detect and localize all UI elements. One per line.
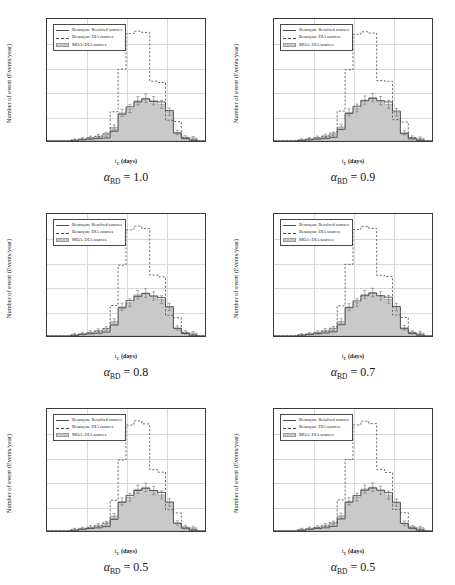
y-axis-label: Number of event (Events/year) [232,434,239,513]
y-axis-tick-mark [273,483,274,484]
y-axis-tick-mark [46,483,47,484]
legend-entry: Besançon: Resolved sources [56,417,122,423]
x-axis-tick-mark [354,213,355,214]
x-axis-tick-mark [127,18,128,19]
x-axis-tick-mark [167,408,168,409]
legend-key-solid-icon [56,28,69,33]
panel-caption: αBD = 0.5 [104,560,149,576]
x-axis-tick-label: 103 [430,531,433,532]
y-axis-tick-mark [46,508,47,509]
x-axis-tick-label: 102 [163,531,170,532]
legend-entry-label: MOA: DIA sources [299,43,333,47]
y-axis-label: Number of event (Events/year) [232,239,239,318]
panel-caption: αBD = 0.5 [331,560,376,576]
x-axis-tick-mark [47,213,48,214]
legend-entry-label: Besançon: Resolved sources [299,418,349,422]
legend-entry-label: MOA: DIA sources [299,433,333,437]
legend-key-solid-icon [283,28,296,33]
y-axis-tick-mark [46,458,47,459]
x-axis-tick-mark [394,18,395,19]
legend-key-patch-icon [283,238,296,243]
y-axis-tick-mark [46,43,47,44]
x-axis-tick-label: 100 [83,531,90,532]
legend-key-patch-icon [283,43,296,48]
x-axis-tick-mark [354,408,355,409]
legend-entry-label: MOA: DIA sources [299,238,333,242]
y-axis-label: Number of event (Events/year) [5,434,12,513]
plot-area: 0200400600800100010-1100101102103Besanço… [46,408,206,532]
legend-entry: Besançon: DIA sources [283,35,349,41]
legend-entry: Besançon: Resolved sources [56,27,122,33]
legend-key-solid-icon [56,418,69,423]
x-axis-tick-label: 103 [203,141,206,142]
y-axis-label: Number of event (Events/year) [5,239,12,318]
legend-entry: MOA: DIA sources [56,42,122,48]
legend-entry: MOA: DIA sources [56,237,122,243]
x-axis-tick-label: 102 [163,141,170,142]
legend: Besançon: Resolved sourcesBesançon: DIA … [53,24,126,51]
legend-entry-label: MOA: DIA sources [72,43,106,47]
legend: Besançon: Resolved sourcesBesançon: DIA … [280,24,353,51]
x-axis-tick-mark [354,18,355,19]
legend-entry: Besançon: Resolved sources [283,417,349,423]
chart-panel-5: 0200400600800100010-1100101102103Besanço… [0,390,227,585]
x-axis-label: tE (days) [115,352,137,361]
legend-entry: MOA: DIA sources [283,42,349,48]
legend-key-dashed-icon [283,230,296,235]
x-axis-tick-mark [47,408,48,409]
legend-entry-label: Besançon: Resolved sources [72,418,122,422]
legend-entry: Besançon: DIA sources [56,230,122,236]
x-axis-tick-mark [314,18,315,19]
x-axis-tick-label: 103 [203,336,206,337]
x-axis-label: tE (days) [342,157,364,166]
legend-entry-label: Besançon: Resolved sources [72,28,122,32]
chart-panel-6: 0200400600800100010-1100101102103Besanço… [227,390,455,585]
y-axis-tick-mark [46,118,47,119]
chart-panel-1: 0200400600800100010-1100101102103Besanço… [0,0,227,195]
legend: Besançon: Resolved sourcesBesançon: DIA … [53,414,126,441]
x-axis-label: tE (days) [342,352,364,361]
y-axis-tick-mark [273,118,274,119]
x-axis-tick-label: 102 [390,141,397,142]
x-axis-tick-mark [274,18,275,19]
x-axis-tick-mark [274,213,275,214]
x-axis-tick-mark [87,18,88,19]
legend-entry: MOA: DIA sources [283,432,349,438]
y-axis-tick-mark [273,313,274,314]
legend-key-patch-icon [56,433,69,438]
x-axis-tick-label: 100 [83,336,90,337]
legend-entry: Besançon: DIA sources [283,425,349,431]
x-axis-tick-mark [167,213,168,214]
x-axis-label: tE (days) [342,547,364,556]
x-axis-tick-mark [87,213,88,214]
x-axis-tick-label: 10-1 [273,336,278,337]
legend-key-patch-icon [56,238,69,243]
x-axis-tick-mark [167,18,168,19]
x-axis-tick-label: 101 [123,141,130,142]
legend-entry-label: Besançon: DIA sources [299,230,340,234]
x-axis-tick-label: 10-1 [46,141,51,142]
legend-entry-label: Besançon: DIA sources [299,425,340,429]
legend: Besançon: Resolved sourcesBesançon: DIA … [53,219,126,246]
plot-area: 0200400600800100010-1100101102103Besanço… [273,18,433,142]
x-axis-tick-label: 101 [350,531,357,532]
x-axis-tick-mark [47,18,48,19]
x-axis-tick-label: 100 [310,141,317,142]
x-axis-tick-label: 102 [390,531,397,532]
y-axis-tick-mark [273,68,274,69]
x-axis-tick-mark [314,213,315,214]
x-axis-tick-label: 10-1 [46,531,51,532]
y-axis-tick-mark [273,508,274,509]
legend-entry: Besançon: Resolved sources [283,222,349,228]
legend: Besançon: Resolved sourcesBesançon: DIA … [280,219,353,246]
legend-entry-label: MOA: DIA sources [72,238,106,242]
y-axis-label: Number of event (Events/year) [5,44,12,123]
legend-key-solid-icon [283,223,296,228]
x-axis-tick-mark [314,408,315,409]
x-axis-tick-label: 100 [310,336,317,337]
x-axis-tick-label: 101 [350,336,357,337]
x-axis-tick-label: 103 [430,336,433,337]
y-axis-label: Number of event (Events/year) [232,44,239,123]
plot-area: 0200400600800100010-1100101102103Besanço… [46,213,206,337]
y-axis-tick-mark [46,263,47,264]
